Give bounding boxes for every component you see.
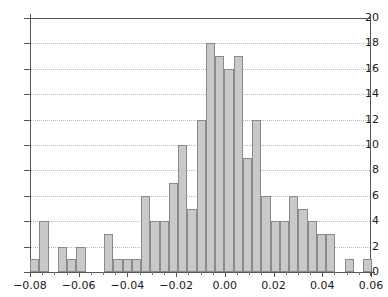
histogram-bar <box>261 196 270 272</box>
x-tick-minor <box>347 272 348 275</box>
x-tick <box>30 272 31 277</box>
x-tick-label: 0.06 <box>348 280 388 292</box>
x-tick-label: −0.08 <box>7 280 53 292</box>
x-tick-minor <box>298 272 299 275</box>
x-tick-minor <box>91 272 92 275</box>
histogram-bar <box>280 221 289 272</box>
histogram-bar <box>243 158 252 272</box>
histogram-bar <box>141 196 150 272</box>
x-tick <box>79 272 80 277</box>
histogram-bar <box>206 43 215 272</box>
x-tick-minor <box>152 272 153 275</box>
histogram-bar <box>363 259 372 272</box>
histogram-bar <box>123 259 132 272</box>
x-tick-minor <box>201 272 202 275</box>
histogram-bar <box>326 234 335 272</box>
histogram-bar <box>113 259 122 272</box>
x-tick <box>176 272 177 277</box>
histogram-bar <box>289 196 298 272</box>
x-tick-minor <box>249 272 250 275</box>
x-tick-label: 0.02 <box>251 280 297 292</box>
x-tick <box>225 272 226 277</box>
histogram-bar <box>39 221 48 272</box>
histogram-bar <box>150 221 159 272</box>
histogram-bar <box>104 234 113 272</box>
x-tick-minor <box>188 272 189 275</box>
histogram-bar <box>234 56 243 272</box>
histogram-bar <box>58 247 67 272</box>
x-tick <box>371 272 372 277</box>
x-tick-label: 0.04 <box>299 280 345 292</box>
histogram-bar <box>178 145 187 272</box>
histogram-bar <box>76 247 85 272</box>
x-tick-minor <box>42 272 43 275</box>
histogram-bar <box>215 56 224 272</box>
x-tick-minor <box>67 272 68 275</box>
x-tick-minor <box>103 272 104 275</box>
histogram-bars <box>30 18 371 272</box>
x-tick-label: −0.04 <box>104 280 150 292</box>
x-tick-label: −0.02 <box>153 280 199 292</box>
x-tick-label: 0.00 <box>202 280 248 292</box>
histogram-bar <box>298 209 307 273</box>
x-tick <box>274 272 275 277</box>
x-tick-minor <box>261 272 262 275</box>
histogram-bar <box>252 120 261 272</box>
histogram-bar <box>271 221 280 272</box>
histogram-bar <box>197 120 206 272</box>
x-tick-minor <box>164 272 165 275</box>
histogram-bar <box>224 69 233 272</box>
histogram-bar <box>187 209 196 273</box>
x-tick <box>127 272 128 277</box>
x-tick-minor <box>140 272 141 275</box>
histogram-bar <box>317 234 326 272</box>
histogram-bar <box>308 221 317 272</box>
x-tick-minor <box>54 272 55 275</box>
x-tick <box>322 272 323 277</box>
x-tick-minor <box>359 272 360 275</box>
histogram-bar <box>67 259 76 272</box>
x-tick-minor <box>310 272 311 275</box>
x-tick-minor <box>286 272 287 275</box>
histogram-bar <box>160 221 169 272</box>
histogram-bar <box>30 259 39 272</box>
histogram-bar <box>345 259 354 272</box>
x-tick-label: −0.06 <box>56 280 102 292</box>
histogram-bar <box>132 259 141 272</box>
histogram-bar <box>169 183 178 272</box>
x-tick-minor <box>334 272 335 275</box>
x-tick-minor <box>213 272 214 275</box>
x-tick-minor <box>115 272 116 275</box>
x-tick-minor <box>237 272 238 275</box>
